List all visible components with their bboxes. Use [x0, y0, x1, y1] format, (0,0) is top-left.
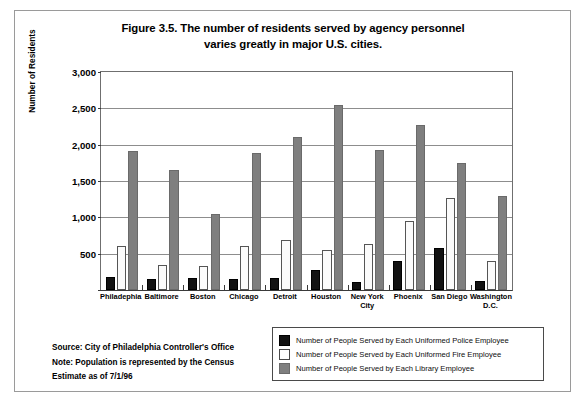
bar-police — [434, 248, 443, 290]
legend-label-library: Number of People Served by Each Library … — [296, 364, 474, 373]
chart-title-line-2: varies greatly in major U.S. cities. — [55, 37, 531, 53]
bar-police — [393, 261, 402, 290]
source-note: Source: City of Philadelphia Controller'… — [52, 341, 267, 385]
y-tick-label: 1,000 — [72, 212, 96, 223]
bar-police — [106, 277, 115, 290]
x-tick-mark — [471, 285, 472, 290]
bar-group — [430, 72, 471, 290]
y-tick-label: 2,000 — [72, 139, 96, 150]
x-axis-label: Chicago — [223, 292, 264, 301]
x-tick-mark — [224, 285, 225, 290]
y-axis-title: Number of Residents — [27, 11, 37, 131]
bar-group — [265, 72, 306, 290]
source-line: Source: City of Philadelphia Controller'… — [52, 341, 267, 356]
bar-police — [311, 270, 320, 290]
chart-title: Figure 3.5. The number of residents serv… — [55, 21, 531, 52]
legend-label-police: Number of People Served by Each Uniforme… — [296, 336, 509, 345]
bar-fire — [446, 198, 455, 290]
bar-library — [416, 125, 425, 290]
bar-fire — [281, 240, 290, 290]
note-line: Note: Population is represented by the C… — [52, 356, 267, 371]
legend-item-police: Number of People Served by Each Uniforme… — [279, 333, 537, 347]
x-axis-labels: PhiladephiaBaltimoreBostonChicagoDetroit… — [100, 292, 513, 318]
legend-label-fire: Number of People Served by Each Uniforme… — [296, 350, 501, 359]
bars-layer — [101, 72, 512, 290]
bar-library — [293, 137, 302, 290]
bar-library — [169, 170, 178, 290]
x-axis-label: Boston — [182, 292, 223, 301]
y-tick-mark — [98, 290, 101, 291]
x-axis-label: Philadephia — [100, 292, 141, 301]
chart-title-line-1: Figure 3.5. The number of residents serv… — [55, 21, 531, 37]
x-axis-label: Baltimore — [141, 292, 182, 301]
bar-library — [252, 153, 261, 290]
x-tick-mark — [183, 285, 184, 290]
bar-police — [188, 278, 197, 290]
bar-library — [334, 105, 343, 290]
bar-group — [471, 72, 512, 290]
bar-fire — [322, 250, 331, 290]
bar-library — [211, 214, 220, 290]
y-tick-label: 2,500 — [72, 103, 96, 114]
legend-swatch-police-icon — [279, 335, 290, 346]
x-axis-label: Washington D.C. — [470, 292, 511, 310]
bar-group — [224, 72, 265, 290]
bar-fire — [487, 261, 496, 290]
bar-group — [389, 72, 430, 290]
bar-fire — [405, 221, 414, 290]
y-tick-label: 3,000 — [72, 67, 96, 78]
bar-fire — [158, 265, 167, 290]
bar-library — [498, 196, 507, 290]
bar-library — [375, 150, 384, 290]
chart-legend: Number of People Served by Each Uniforme… — [272, 327, 544, 381]
bar-group — [183, 72, 224, 290]
x-tick-mark — [307, 285, 308, 290]
bar-police — [147, 279, 156, 290]
bar-group — [307, 72, 348, 290]
bar-police — [475, 281, 484, 290]
legend-item-library: Number of People Served by Each Library … — [279, 361, 537, 375]
x-axis-label: San Diego — [429, 292, 470, 301]
x-axis-label: Phoenix — [388, 292, 429, 301]
bar-group — [348, 72, 389, 290]
x-tick-mark — [430, 285, 431, 290]
legend-swatch-library-icon — [279, 363, 290, 374]
x-tick-mark — [348, 285, 349, 290]
x-axis-label: New YorkCity — [347, 292, 388, 310]
x-axis-label: Houston — [306, 292, 347, 301]
bar-fire — [240, 246, 249, 290]
bar-fire — [117, 246, 126, 290]
estimate-line: Estimate as of 7/1/96 — [52, 370, 267, 385]
x-tick-mark — [389, 285, 390, 290]
bar-fire — [199, 266, 208, 290]
bar-library — [457, 163, 466, 290]
x-tick-mark — [265, 285, 266, 290]
bar-police — [229, 279, 238, 290]
bar-library — [128, 151, 137, 290]
figure-frame: Figure 3.5. The number of residents serv… — [14, 10, 571, 392]
x-axis-label: Detroit — [264, 292, 305, 301]
y-tick-label: 500 — [80, 248, 96, 259]
y-tick-label: 1,500 — [72, 176, 96, 187]
legend-item-fire: Number of People Served by Each Uniforme… — [279, 347, 537, 361]
bar-police — [270, 278, 279, 290]
bar-group — [101, 72, 142, 290]
plot-area: 5001,0001,5002,0002,5003,000 — [100, 71, 513, 291]
bar-fire — [364, 244, 373, 290]
legend-swatch-fire-icon — [279, 349, 290, 360]
bar-police — [352, 282, 361, 290]
bar-group — [142, 72, 183, 290]
x-tick-mark — [142, 285, 143, 290]
